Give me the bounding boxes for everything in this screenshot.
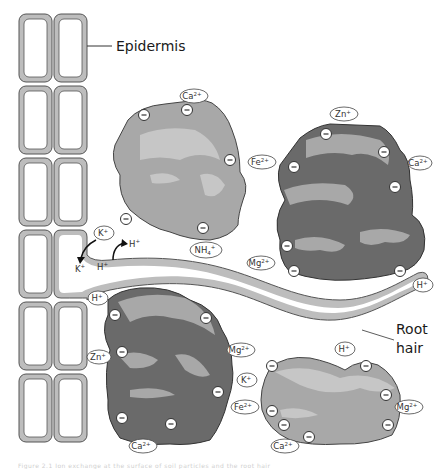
root-hair-label-line1: Root (396, 321, 428, 337)
root-hair-label-line2: hair (396, 340, 423, 356)
epidermis-label: Epidermis (116, 38, 185, 54)
soil-particle-1 (113, 100, 246, 240)
root-hair-leader-line (362, 330, 394, 340)
soil-particle-4 (261, 357, 400, 444)
root-ion-exchange-diagram: Epidermis Root hair (0, 0, 448, 475)
svg-text:H+: H+ (129, 238, 140, 249)
epidermis-cells (19, 14, 87, 442)
figure-caption: Figure 2.1 Ion exchange at the surface o… (18, 462, 438, 469)
h-arrowhead-icon (121, 239, 128, 247)
soil-particle-2 (277, 124, 425, 280)
